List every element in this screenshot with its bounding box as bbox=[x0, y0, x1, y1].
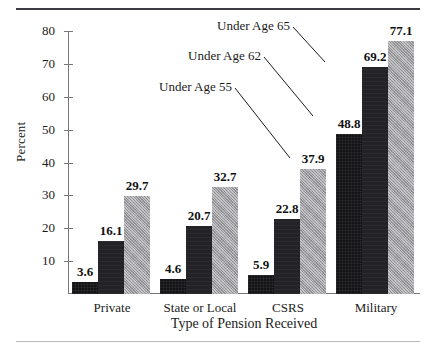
bar-value-label: 48.8 bbox=[338, 116, 361, 132]
figure-top-rule bbox=[16, 8, 420, 10]
bar[interactable]: 4.6 bbox=[160, 279, 186, 294]
y-tick-label: 20 bbox=[42, 220, 55, 236]
annotation-under-age-62: Under Age 62 bbox=[188, 48, 261, 64]
y-axis-title: Percent bbox=[13, 122, 29, 162]
bar-value-label: 5.9 bbox=[253, 257, 269, 273]
bar-group: 5.922.837.9CSRS bbox=[248, 31, 328, 294]
bar-value-label: 16.1 bbox=[100, 223, 123, 239]
y-tick-label: 80 bbox=[42, 23, 55, 39]
category-label: CSRS bbox=[272, 300, 304, 316]
bar[interactable]: 29.7 bbox=[124, 196, 150, 294]
chart-figure: Percent Type of Pension Received 8070605… bbox=[0, 0, 436, 352]
bar-group: 48.869.277.1Military bbox=[336, 31, 416, 294]
bar-group: 3.616.129.7Private bbox=[72, 31, 152, 294]
bar[interactable]: 3.6 bbox=[72, 282, 98, 294]
bar-value-label: 3.6 bbox=[77, 264, 93, 280]
bar-value-label: 29.7 bbox=[126, 178, 149, 194]
bar[interactable]: 77.1 bbox=[388, 41, 414, 294]
y-tick-label: 70 bbox=[42, 56, 55, 72]
bar-group: 4.620.732.7State or Local bbox=[160, 31, 240, 294]
bar-value-label: 20.7 bbox=[188, 208, 211, 224]
category-label: Military bbox=[355, 300, 398, 316]
y-tick-label: 30 bbox=[42, 187, 55, 203]
plot-area: 8070605040302010 3.616.129.7Private4.620… bbox=[68, 31, 420, 294]
y-tick-label: 60 bbox=[42, 89, 55, 105]
bar-value-label: 22.8 bbox=[276, 201, 299, 217]
bar[interactable]: 16.1 bbox=[98, 241, 124, 294]
bar[interactable]: 69.2 bbox=[362, 67, 388, 294]
bar-value-label: 69.2 bbox=[364, 49, 387, 65]
bar[interactable]: 32.7 bbox=[212, 187, 238, 295]
y-tick-label: 10 bbox=[42, 253, 55, 269]
bar[interactable]: 48.8 bbox=[336, 134, 362, 294]
annotation-under-age-55: Under Age 55 bbox=[159, 79, 232, 95]
bar[interactable]: 22.8 bbox=[274, 219, 300, 294]
bar-value-label: 77.1 bbox=[390, 23, 413, 39]
category-label: Private bbox=[94, 300, 131, 316]
bar[interactable]: 5.9 bbox=[248, 275, 274, 294]
bar-value-label: 37.9 bbox=[302, 151, 325, 167]
y-tick-label: 40 bbox=[42, 155, 55, 171]
category-label: State or Local bbox=[164, 300, 237, 316]
annotation-under-age-65: Under Age 65 bbox=[217, 18, 290, 34]
x-axis-title: Type of Pension Received bbox=[68, 316, 420, 332]
bar-value-label: 32.7 bbox=[214, 169, 237, 185]
bar[interactable]: 20.7 bbox=[186, 226, 212, 294]
bar[interactable]: 37.9 bbox=[300, 169, 326, 294]
y-tick-label: 50 bbox=[42, 122, 55, 138]
bar-value-label: 4.6 bbox=[165, 261, 181, 277]
figure-bottom-rule bbox=[16, 341, 420, 342]
